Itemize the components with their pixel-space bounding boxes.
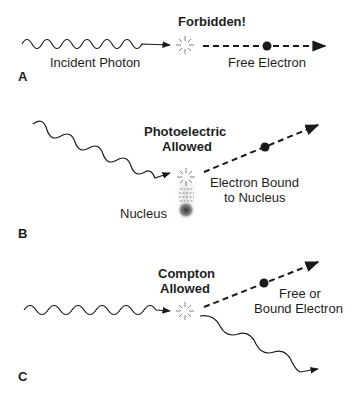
scattered-photon-wave-c xyxy=(200,316,318,372)
panel-c-title-line2: Allowed xyxy=(160,281,210,296)
panel-a-graphics xyxy=(22,36,325,54)
electron-dot-c xyxy=(260,279,269,288)
bound-electron-label-line1: Electron Bound xyxy=(210,175,299,190)
interaction-burst-icon-a xyxy=(176,36,194,54)
panel-b-title-line2: Allowed xyxy=(162,139,212,154)
nucleus-icon xyxy=(177,201,195,219)
bound-electron-label-line2: to Nucleus xyxy=(224,190,285,205)
panel-b-title-line1: Photoelectric xyxy=(144,124,226,139)
nucleus-label: Nucleus xyxy=(120,206,167,221)
incident-photon-wave-c xyxy=(24,306,170,315)
panel-a-letter: A xyxy=(18,69,27,84)
interaction-burst-icon-c xyxy=(176,302,194,320)
electron-label-c-line1: Free or xyxy=(279,286,321,301)
incident-photon-wave-a xyxy=(22,40,170,49)
panel-b-letter: B xyxy=(18,226,27,241)
electron-dot-a xyxy=(263,42,272,51)
panel-c-title-line1: Compton xyxy=(158,266,215,281)
panel-c-letter: C xyxy=(18,369,27,384)
electron-label-c-line2: Bound Electron xyxy=(254,301,343,316)
electron-dot-b xyxy=(261,143,270,152)
panel-a-title: Forbidden! xyxy=(178,14,246,29)
free-electron-label: Free Electron xyxy=(228,55,306,70)
incident-photon-label: Incident Photon xyxy=(50,55,140,70)
